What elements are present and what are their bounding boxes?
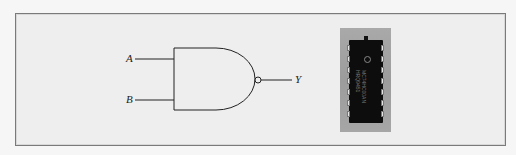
and-body	[174, 48, 255, 110]
nand-gate-symbol	[0, 0, 516, 155]
ic-chip-photo: MC74HC00AN HRQ9451	[340, 28, 391, 132]
chip-body: MC74HC00AN HRQ9451	[349, 40, 383, 123]
inversion-bubble-icon	[255, 77, 261, 83]
chip-pin	[347, 67, 350, 73]
chip-part-number: MC74HC00AN	[361, 70, 367, 103]
input-label-b: B	[126, 93, 133, 105]
chip-pin	[347, 45, 350, 51]
chip-pin	[381, 89, 384, 95]
chip-pin	[347, 89, 350, 95]
manufacturer-logo-icon	[364, 56, 371, 63]
chip-markings: MC74HC00AN HRQ9451	[355, 70, 367, 103]
input-label-a: A	[126, 52, 133, 64]
chip-pin	[381, 100, 384, 106]
chip-pin	[381, 67, 384, 73]
chip-pin	[381, 111, 384, 117]
chip-pin	[347, 100, 350, 106]
chip-pin	[381, 56, 384, 62]
chip-pin	[347, 78, 350, 84]
chip-pin	[381, 45, 384, 51]
chip-pin	[381, 78, 384, 84]
output-label-y: Y	[295, 73, 301, 85]
chip-pin	[347, 56, 350, 62]
chip-pin	[347, 111, 350, 117]
